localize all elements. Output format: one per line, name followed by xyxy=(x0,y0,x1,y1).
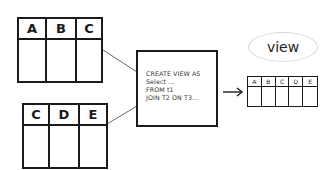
create-view-query-box: CREATE VIEW AS Select ... FROM t1 JOIN T… xyxy=(136,50,218,127)
column-header: C xyxy=(276,77,290,86)
table-cell xyxy=(276,87,290,106)
query-line: Select ... xyxy=(146,78,216,86)
table-cell xyxy=(303,87,317,106)
connector-t1-to-query xyxy=(103,50,137,72)
column-header: A xyxy=(248,77,262,86)
table-body-row xyxy=(19,40,101,81)
table-cell xyxy=(80,126,106,167)
arrow-icon xyxy=(223,88,242,96)
column-header: D xyxy=(50,105,80,124)
table-cell xyxy=(289,87,303,106)
table-header-row: A B C xyxy=(19,19,101,40)
column-header: B xyxy=(47,19,77,38)
column-header: B xyxy=(262,77,276,86)
table-cell xyxy=(248,87,262,106)
table-cell xyxy=(19,40,47,81)
source-table-1: A B C xyxy=(17,17,103,83)
table-body-row xyxy=(248,87,317,106)
table-header-row: C D E xyxy=(24,105,106,126)
table-body-row xyxy=(24,126,106,167)
table-cell xyxy=(24,126,50,167)
result-view-table: A B C D E xyxy=(247,76,318,107)
table-cell xyxy=(262,87,276,106)
column-header: D xyxy=(289,77,303,86)
table-cell xyxy=(77,40,101,81)
column-header: A xyxy=(19,19,47,38)
column-header: C xyxy=(77,19,101,38)
query-line: FROM t1 xyxy=(146,86,216,94)
query-line: JOIN T2 ON T3... xyxy=(146,94,216,102)
query-line: CREATE VIEW AS xyxy=(146,70,216,78)
connector-t2-to-query xyxy=(107,106,137,124)
table-header-row: A B C D E xyxy=(248,77,317,87)
column-header: E xyxy=(303,77,317,86)
source-table-2: C D E xyxy=(22,103,108,169)
column-header: E xyxy=(80,105,106,124)
view-label-ellipse: view xyxy=(248,32,318,62)
table-cell xyxy=(50,126,80,167)
column-header: C xyxy=(24,105,50,124)
table-cell xyxy=(47,40,77,81)
